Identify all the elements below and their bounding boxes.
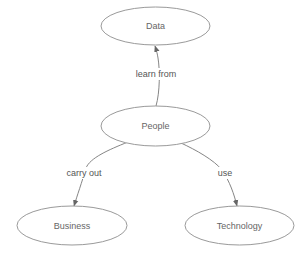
edge-people-to-business: carry out [60,142,128,206]
node-people-label: People [141,121,169,131]
concept-diagram: learn from carry out use Data People Bus… [0,0,307,256]
node-technology-label: Technology [217,221,263,231]
node-people[interactable]: People [101,106,210,146]
node-data[interactable]: Data [101,7,210,45]
node-technology[interactable]: Technology [185,206,294,245]
edge-people-to-data: learn from [132,46,180,106]
edge-label-carry-out: carry out [66,168,102,178]
node-data-label: Data [146,21,165,31]
node-business[interactable]: Business [17,206,127,245]
edge-label-use: use [218,168,233,178]
node-business-label: Business [54,221,91,231]
edge-label-learn-from: learn from [136,69,177,79]
edge-people-to-technology: use [181,143,237,206]
